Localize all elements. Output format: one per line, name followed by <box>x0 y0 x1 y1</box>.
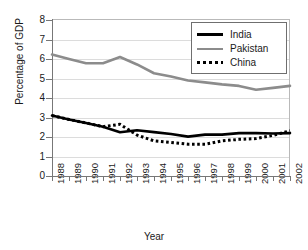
legend-label-pakistan: Pakistan <box>230 43 268 54</box>
legend-item-pakistan: Pakistan <box>197 41 281 55</box>
series-line-china <box>52 116 290 145</box>
legend-label-china: China <box>230 57 256 68</box>
legend-item-india: India <box>197 27 281 41</box>
legend-swatch-india <box>197 28 223 40</box>
x-axis-title: Year <box>0 231 308 242</box>
legend-swatch-pakistan <box>197 42 223 54</box>
legend: India Pakistan China <box>191 22 287 74</box>
series-line-india <box>52 116 290 137</box>
line-chart: Percentage of GDP 876543210 198819891990… <box>0 0 308 250</box>
legend-item-china: China <box>197 55 281 69</box>
legend-label-india: India <box>230 29 252 40</box>
legend-swatch-china <box>197 56 223 68</box>
